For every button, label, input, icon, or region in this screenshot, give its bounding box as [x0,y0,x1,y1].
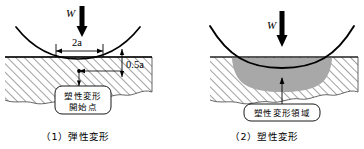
panel-elastic-deformation: W 2a 0.5a 塑性変形 開始点 （1）弾性変形 [0,0,182,149]
deformation-figure: W 2a 0.5a 塑性変形 開始点 （1）弾性変形 [0,0,364,149]
callout-line-1-plastic: 塑性変形領域 [244,108,320,119]
load-arrow-plastic [277,11,288,47]
caption-elastic: （1）弾性変形 [41,129,110,143]
load-label-plastic: W [267,20,276,31]
panel-elastic-graphics [0,0,182,149]
caption-plastic: （2）塑性変形 [230,129,299,143]
callout-line-1-elastic: 塑性変形 [55,91,111,102]
contact-width-label: 2a [72,38,82,49]
depth-label: 0.5a [126,60,144,71]
load-label-elastic: W [66,8,75,19]
callout-line-2-elastic: 開始点 [55,102,111,113]
panel-plastic-deformation: W 塑性変形領域 （2）塑性変形 [182,0,364,149]
load-arrow-elastic [77,6,88,37]
